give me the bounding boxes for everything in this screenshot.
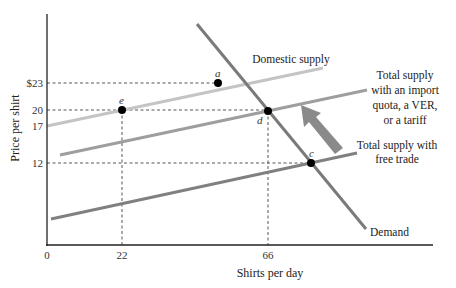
x-tick-0: 0: [44, 249, 50, 261]
x-tick-22: 22: [117, 249, 128, 261]
point-e-label: e: [119, 94, 124, 106]
reference-lines: [47, 83, 311, 245]
x-tick-66: 66: [263, 249, 275, 261]
svg-text:free trade: free trade: [375, 153, 419, 165]
demand-label: Demand: [370, 226, 409, 238]
point-d: [264, 107, 272, 115]
domestic-supply-label: Domestic supply: [252, 53, 330, 66]
x-axis-title: Shirts per day: [237, 266, 304, 280]
svg-text:Total supply with: Total supply with: [357, 139, 438, 152]
supply-demand-chart: a e d c $23 20 17 12 0 22 66 Shirts per …: [0, 0, 456, 288]
point-c-label: c: [309, 147, 314, 159]
point-c: [307, 159, 315, 167]
svg-text:with an import: with an import: [371, 84, 440, 97]
point-d-label: d: [257, 114, 263, 126]
y-tick-12: 12: [32, 157, 43, 169]
svg-text:quota, a VER,: quota, a VER,: [373, 99, 438, 112]
free-trade-supply-label: Total supply with free trade: [357, 139, 438, 165]
y-axis-title: Price per shirt: [8, 94, 22, 162]
point-a: [214, 79, 222, 87]
y-tick-17: 17: [32, 120, 44, 132]
svg-text:or a tariff: or a tariff: [383, 114, 426, 126]
y-tick-23: $23: [27, 77, 44, 89]
y-tick-20: 20: [32, 104, 44, 116]
svg-text:Total supply: Total supply: [376, 69, 433, 82]
point-e: [118, 106, 126, 114]
shift-arrow-icon: [301, 105, 343, 154]
quota-supply-line: [60, 90, 367, 155]
domestic-supply-line: [47, 68, 323, 126]
point-a-label: a: [215, 67, 221, 79]
quota-supply-label: Total supply with an import quota, a VER…: [371, 69, 440, 126]
